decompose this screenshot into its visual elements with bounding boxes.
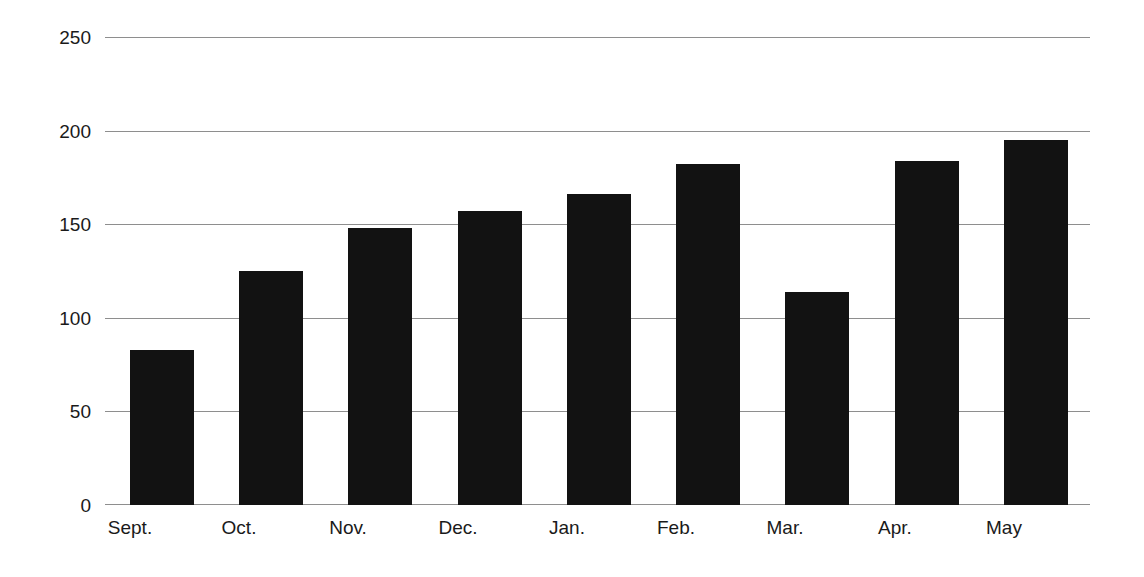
bar-mar — [785, 292, 849, 505]
x-tick-label-jan: Jan. — [512, 518, 622, 537]
y-tick-label-100: 100 — [0, 309, 91, 328]
y-tick-label-0: 0 — [0, 496, 91, 515]
plot-area — [105, 37, 1090, 505]
y-tick-label-150: 150 — [0, 215, 91, 234]
x-tick-label-oct: Oct. — [184, 518, 294, 537]
y-tick-label-200: 200 — [0, 122, 91, 141]
x-tick-label-mar: Mar. — [730, 518, 840, 537]
bar-jan — [567, 194, 631, 505]
x-tick-label-nov: Nov. — [293, 518, 403, 537]
bar-nov — [348, 228, 412, 505]
bar-may — [1004, 140, 1068, 505]
x-tick-label-apr: Apr. — [840, 518, 950, 537]
x-tick-label-feb: Feb. — [621, 518, 731, 537]
bar-dec — [458, 211, 522, 505]
x-tick-label-may: May — [949, 518, 1059, 537]
y-tick-label-50: 50 — [0, 402, 91, 421]
x-tick-label-dec: Dec. — [403, 518, 513, 537]
y-tick-label-250: 250 — [0, 28, 91, 47]
bar-sept — [130, 350, 194, 505]
x-tick-label-sept: Sept. — [75, 518, 185, 537]
bar-feb — [676, 164, 740, 505]
bar-apr — [895, 161, 959, 505]
bar-oct — [239, 271, 303, 505]
gridline-250 — [105, 37, 1090, 38]
gridline-200 — [105, 131, 1090, 132]
bar-chart: 250 200 150 100 50 0 Sept. Oct. Nov. Dec… — [0, 0, 1144, 577]
